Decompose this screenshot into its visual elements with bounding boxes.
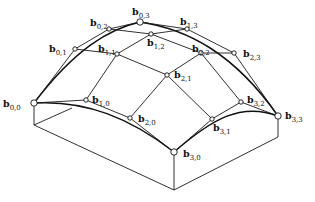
label-b33: b3,3 — [285, 110, 303, 124]
label-b02: b0,2 — [90, 17, 108, 31]
control-point-b32 — [239, 100, 243, 104]
label-b12: b1,2 — [147, 37, 165, 51]
control-point-b20 — [128, 116, 132, 120]
control-point-b30 — [171, 149, 177, 155]
label-b10: b1,0 — [92, 94, 110, 108]
net-col-2 — [109, 29, 241, 102]
label-b21: b2,1 — [174, 69, 192, 83]
control-point-b21 — [165, 73, 169, 77]
label-b01: b0,1 — [49, 43, 67, 57]
label-b03: b0,3 — [132, 6, 150, 20]
control-point-labels: b0,0b0,1b0,2b0,3b1,0b1,1b1,2b1,3b2,0b2,1… — [3, 6, 303, 162]
box-edge-hidden-back — [34, 108, 72, 125]
box-edge-bottom-left — [34, 125, 174, 190]
label-b13: b1,3 — [180, 16, 198, 30]
label-b11: b1,1 — [98, 43, 116, 57]
control-point-b10 — [84, 98, 88, 102]
label-b00: b0,0 — [3, 98, 21, 112]
control-net — [34, 22, 278, 152]
label-b31: b3,1 — [213, 122, 231, 136]
control-points — [31, 19, 281, 155]
control-point-b01 — [73, 47, 77, 51]
label-b20: b2,0 — [138, 113, 156, 127]
net-row-1 — [86, 29, 187, 100]
control-point-b00 — [31, 100, 37, 106]
net-row-0 — [34, 22, 140, 103]
control-point-b12 — [149, 32, 153, 36]
control-point-b23 — [232, 51, 236, 55]
label-b22: b2,2 — [192, 43, 210, 57]
net-row-2 — [130, 53, 234, 118]
label-b23: b2,3 — [243, 48, 261, 62]
curve-u0 — [34, 22, 140, 103]
control-point-b33 — [275, 113, 281, 119]
base-box — [34, 103, 278, 190]
bezier-patch-diagram: b0,0b0,1b0,2b0,3b1,0b1,1b1,2b1,3b2,0b2,1… — [0, 0, 315, 202]
control-point-b03 — [137, 19, 143, 25]
box-edge-bottom-right — [174, 137, 278, 190]
control-point-b31 — [210, 117, 214, 121]
curve-v0 — [34, 103, 174, 152]
label-b30: b3,0 — [183, 148, 201, 162]
patch-boundary-curves — [34, 22, 278, 152]
